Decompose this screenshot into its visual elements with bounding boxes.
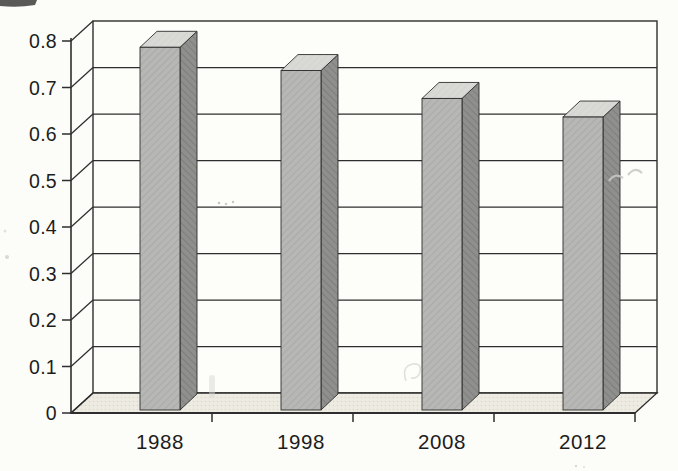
bar-side-face <box>321 55 338 410</box>
bar-front-face <box>422 98 462 410</box>
bar-front-face <box>140 47 180 410</box>
y-tick-label: 0.2 <box>29 309 57 331</box>
x-tick-label: 1998 <box>277 430 325 453</box>
x-tick-label: 1988 <box>136 430 184 453</box>
y-tick-label: 0.3 <box>29 263 57 285</box>
bar-side-face <box>180 31 197 410</box>
x-tick-label: 2012 <box>559 430 607 453</box>
bar-front-face <box>281 71 321 410</box>
y-tick-label: 0.6 <box>29 123 57 145</box>
bar-1998 <box>281 55 338 410</box>
bar-2008 <box>422 82 479 410</box>
chart-figure: 00.10.20.30.40.50.60.70.8198819982008201… <box>0 0 678 471</box>
y-tick-label: 0.8 <box>29 30 57 52</box>
bar-side-face <box>603 101 620 410</box>
bar-chart-3d: 00.10.20.30.40.50.60.70.8198819982008201… <box>0 0 678 471</box>
y-tick-label: 0.4 <box>29 216 57 238</box>
bar-1988 <box>140 31 197 410</box>
bar-side-face <box>462 82 479 410</box>
bar-2012 <box>563 101 620 410</box>
x-tick-label: 2008 <box>418 430 466 453</box>
y-tick-label: 0.7 <box>29 77 57 99</box>
y-tick-label: 0.1 <box>29 356 57 378</box>
bar-front-face <box>563 117 603 410</box>
y-tick-label: 0.5 <box>29 170 57 192</box>
y-tick-label: 0 <box>46 402 57 424</box>
